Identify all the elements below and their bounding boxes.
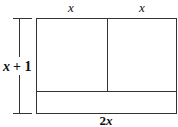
left-side-label: x+ 1 — [2, 59, 31, 74]
top-left-label: x — [67, 0, 74, 15]
top-right-label: x — [138, 0, 145, 15]
left-side-label-rest: + 1 — [13, 59, 31, 74]
left-side-label-var: x — [2, 59, 10, 74]
bottom-label-var: x — [105, 113, 113, 127]
bottom-label: 2x — [100, 113, 114, 127]
outer-rectangle — [37, 19, 177, 114]
area-model-diagram: x x x+ 1 2x — [0, 0, 178, 127]
